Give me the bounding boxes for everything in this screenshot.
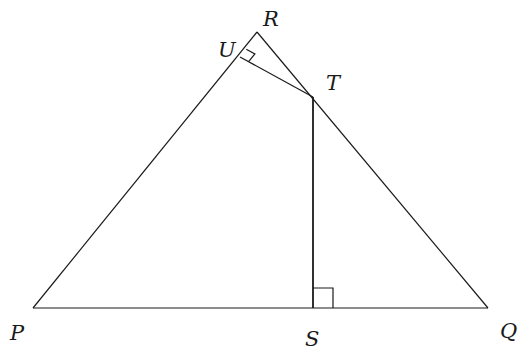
label-T: T xyxy=(326,71,342,95)
right-angle-mark-U xyxy=(246,49,255,62)
label-S: S xyxy=(305,327,319,351)
label-Q: Q xyxy=(500,319,517,343)
segment-UT xyxy=(240,57,313,97)
segment-PR xyxy=(33,32,257,308)
label-R: R xyxy=(262,7,279,31)
segment-RQ xyxy=(257,32,488,308)
geometry-diagram: R U T P S Q xyxy=(0,0,523,360)
right-angle-mark-S xyxy=(313,288,333,308)
label-P: P xyxy=(9,321,25,345)
label-U: U xyxy=(218,38,237,62)
